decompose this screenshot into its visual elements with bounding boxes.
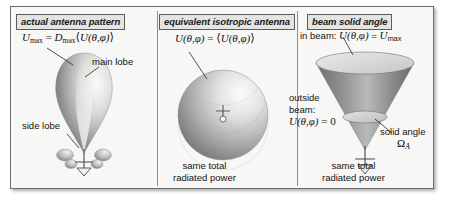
leader-side-lobe [67, 134, 79, 148]
label-side-lobe: side lobe [22, 120, 60, 132]
formula-isotropic-avg-close: ⟩ [250, 31, 255, 45]
label-solid-angle-symbol: ΩA [397, 137, 410, 151]
label-in-beam-equals: = [369, 30, 380, 41]
caption-3-line2: radiated power [322, 172, 385, 184]
omega-symbol: Ω [397, 137, 405, 149]
label-outside-beam: outside beam: U(θ,φ) = 0 [289, 92, 336, 128]
label-outside-beam-expr-row: U(θ,φ) = 0 [289, 116, 336, 128]
label-outside-beam-line1: outside [289, 92, 336, 104]
caption-same-total-radiated-power-2: same total radiated power [173, 160, 236, 183]
leader-main-lobe [85, 67, 99, 77]
formula-umax-lhs-sub: max [30, 36, 43, 45]
panel-heading-equivalent-isotropic-antenna: equivalent isotropic antenna [159, 14, 295, 30]
formula-umax-equals: = [43, 31, 55, 43]
caption-3-line1: same total [322, 160, 385, 172]
label-solid-angle: solid angle [380, 126, 425, 138]
beam-cone-top-opening [316, 52, 414, 74]
omega-subscript: A [405, 142, 410, 151]
label-in-beam-expr: U(θ,φ) [339, 29, 369, 41]
solid-angle-ring [343, 111, 387, 123]
panel-heading-actual-antenna-pattern: actual antenna pattern [16, 14, 125, 30]
formula-isotropic-avg-arg: U(θ,φ) [221, 32, 251, 44]
formula-umax-avg-arg: U(θ,φ) [80, 31, 110, 43]
formula-umax: Umax = Dmax⟨U(θ,φ)⟩ [22, 30, 114, 45]
formula-umax-avg-close: ⟩ [109, 30, 114, 44]
antenna-pattern-figure: actual antenna pattern Umax = Dmax⟨U(θ,φ… [0, 0, 450, 207]
caption-2-line2: radiated power [173, 172, 236, 184]
leader-formula-to-sphere [189, 52, 207, 79]
label-outside-beam-equals: = 0 [319, 115, 336, 127]
caption-same-total-radiated-power-3: same total radiated power [322, 160, 385, 183]
formula-isotropic-equals: = [205, 32, 217, 44]
label-in-beam-prefix: in beam: [300, 30, 339, 41]
caption-2-line1: same total [173, 160, 236, 172]
formula-umax-rhs-sub: max [63, 36, 76, 45]
formula-umax-rhs: D [55, 31, 63, 43]
label-in-beam: in beam: U(θ,φ) = Umax [300, 30, 402, 44]
label-outside-beam-line2: beam: [289, 104, 336, 116]
panel-heading-beam-solid-angle: beam solid angle [307, 14, 392, 30]
sphere-antenna-feed [220, 116, 226, 122]
label-outside-beam-expr: U(θ,φ) [289, 115, 319, 127]
formula-isotropic: U(θ,φ) = ⟨U(θ,φ)⟩ [175, 31, 255, 45]
formula-umax-lhs: U [22, 31, 30, 43]
label-in-beam-value-sub: max [387, 34, 401, 43]
formula-isotropic-lhs: U(θ,φ) [175, 32, 205, 44]
leader-umax-to-lobe [47, 48, 73, 65]
label-main-lobe: main lobe [92, 56, 133, 68]
